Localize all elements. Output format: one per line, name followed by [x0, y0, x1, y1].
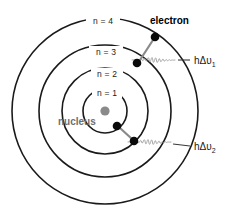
nucleus-dot [100, 106, 109, 115]
electron-transitions [120, 40, 153, 139]
photon-connector-2 [173, 144, 190, 146]
transition-arrow-n2-to-n1 [120, 128, 132, 139]
transition-arrow-n4-to-n3 [140, 40, 153, 60]
orbit-label-n2: n = 2 [97, 69, 117, 79]
bohr-model-diagram: n = 4 n = 3 n = 2 n = 1 [0, 0, 240, 223]
photon-label-2: hΔυ2 [194, 141, 216, 154]
electron-dot-n1 [113, 122, 122, 131]
photon-label-1-text: hΔυ [194, 55, 212, 66]
photon-label-1-subscript: 1 [212, 61, 216, 68]
orbit-label-n4: n = 4 [93, 16, 113, 26]
electron-dot-n3 [133, 59, 142, 68]
photon-label-2-subscript: 2 [212, 147, 216, 154]
photon-label-2-text: hΔυ [194, 141, 212, 152]
nucleus-label: nucleus [58, 116, 96, 127]
electron-label: electron [150, 15, 189, 26]
bohr-model-figure: n = 4 n = 3 n = 2 n = 1 [0, 0, 240, 223]
electron-dot-n4 [151, 33, 160, 42]
orbit-label-n3: n = 3 [96, 47, 116, 57]
electron-dot-n2 [130, 137, 139, 146]
orbit-label-n1: n = 1 [97, 88, 117, 98]
photon-label-1: hΔυ1 [194, 55, 216, 68]
